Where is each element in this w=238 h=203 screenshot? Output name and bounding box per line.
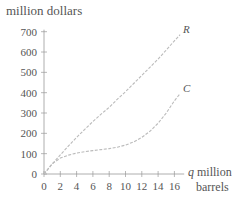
curve-label-C: C bbox=[183, 82, 191, 94]
y-tick-label: 300 bbox=[21, 107, 38, 119]
y-tick-label: 400 bbox=[21, 87, 38, 99]
y-tick-label: 200 bbox=[21, 127, 38, 139]
curves: RC bbox=[44, 23, 191, 174]
x-tick-label: 16 bbox=[169, 180, 181, 192]
curve-label-R: R bbox=[182, 23, 190, 35]
x-tick-label: 8 bbox=[106, 180, 112, 192]
y-tick-label: 700 bbox=[21, 26, 38, 38]
x-tick-label: 10 bbox=[120, 180, 132, 192]
curve-C bbox=[44, 94, 180, 174]
y-tick-label: 600 bbox=[21, 46, 38, 58]
x-tick-label: 0 bbox=[41, 180, 47, 192]
x-tick-label: 2 bbox=[58, 180, 64, 192]
chart-plot: 02468101214160100200300400500600700 RC bbox=[0, 0, 238, 203]
x-tick-label: 4 bbox=[74, 180, 80, 192]
curve-R bbox=[44, 35, 180, 174]
y-tick-label: 100 bbox=[21, 148, 38, 160]
y-tick-label: 500 bbox=[21, 66, 38, 78]
y-tick-label: 0 bbox=[32, 168, 38, 180]
x-tick-label: 6 bbox=[90, 180, 96, 192]
x-tick-label: 12 bbox=[136, 180, 147, 192]
axes: 02468101214160100200300400500600700 bbox=[21, 26, 185, 192]
x-tick-label: 14 bbox=[153, 180, 165, 192]
